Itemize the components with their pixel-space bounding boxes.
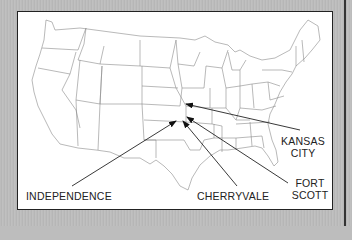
label-cherryvale: CHERRYVALE	[197, 190, 269, 202]
independence-text: INDEPENDENCE	[26, 190, 112, 202]
arrow-fort-scott	[187, 117, 288, 183]
state-borders	[32, 20, 320, 190]
kansas-city-line1: KANSAS	[280, 135, 326, 147]
arrow-kansas-city	[186, 104, 300, 130]
fort-scott-line2: SCOTT	[290, 189, 330, 201]
arrow-independence	[72, 121, 176, 186]
fort-scott-line1: FORT	[290, 177, 330, 189]
cherryvale-text: CHERRYVALE	[197, 190, 269, 202]
label-independence: INDEPENDENCE	[26, 190, 112, 202]
label-kansas-city: KANSAS CITY	[280, 135, 326, 159]
kansas-city-line2: CITY	[280, 147, 326, 159]
arrow-cherryvale	[183, 121, 237, 186]
label-fort-scott: FORT SCOTT	[290, 177, 330, 201]
